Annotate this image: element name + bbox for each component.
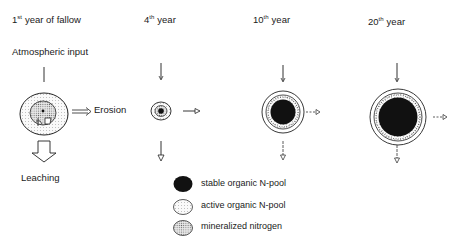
stage-4-diagram: [151, 63, 200, 161]
legend-swatch-mineral: [174, 221, 193, 236]
legend-label-mineral: mineralized nitrogen: [201, 221, 282, 231]
erosion-arrow-icon: [72, 108, 91, 116]
legend-label-active: active organic N-pool: [201, 200, 286, 210]
legend-label-stable: stable organic N-pool: [201, 178, 286, 188]
leaching-arrow-icon: [32, 141, 56, 162]
legend-swatch-active: [174, 200, 193, 215]
stage-20-diagram: [370, 63, 447, 163]
stage-10-diagram: [262, 65, 320, 160]
diagram-canvas: [0, 0, 458, 251]
stage-1-diagram: [20, 67, 91, 162]
legend-swatches: [174, 176, 193, 236]
legend-swatch-stable: [174, 176, 193, 192]
